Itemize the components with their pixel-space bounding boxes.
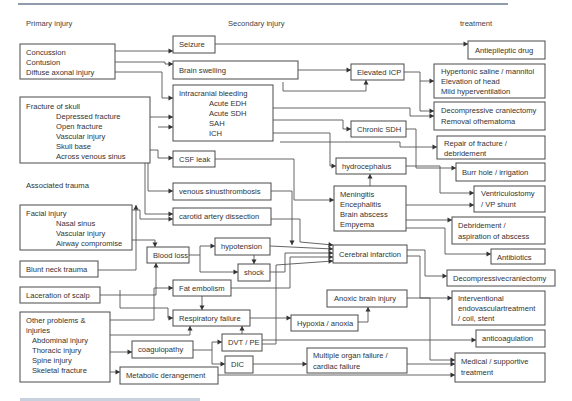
- box-line: Thoracic injury: [32, 346, 82, 355]
- box-label: Brain swelling: [179, 66, 226, 75]
- connector-line: [212, 350, 225, 364]
- arrowhead: [211, 243, 215, 248]
- box-csf-leak: CSF leak: [173, 151, 215, 167]
- box-line: Airway compromise: [56, 239, 122, 248]
- box-repair-fracture: Repair of fracture / debridement: [437, 136, 545, 159]
- box-line: treatment: [461, 368, 494, 377]
- box-venous-sinus-thrombosis: venous sinusthrombosis: [173, 183, 271, 200]
- arrowhead: [330, 197, 334, 202]
- box-line: Open fracture: [56, 122, 102, 131]
- box-label: shock: [244, 268, 264, 277]
- arrowhead: [365, 307, 370, 311]
- box-blood-loss: Blood loss: [147, 247, 189, 263]
- box-line: Depressed fracture: [56, 112, 121, 121]
- arrowhead: [187, 326, 192, 330]
- box-anticoagulation: anticoagulation: [476, 330, 545, 347]
- box-label: Burr hole / irrigation: [462, 168, 528, 177]
- box-line: Vascular injury: [56, 132, 105, 141]
- box-line: Skeletal fracture: [32, 366, 87, 375]
- box-label: Seizure: [179, 40, 205, 49]
- box-label: Blunt neck trauma: [26, 265, 88, 274]
- connector-line: [273, 108, 434, 116]
- arrowhead: [328, 259, 333, 264]
- arrowhead: [221, 361, 225, 366]
- arrowhead: [464, 41, 468, 46]
- box-debridement-abscess: Debridement / aspiration of abscess: [452, 217, 545, 244]
- connector-line: [148, 160, 173, 191]
- connector-line: [407, 256, 452, 298]
- arrowhead: [287, 315, 291, 320]
- connector-line: [110, 326, 190, 335]
- connector-line: [273, 133, 336, 166]
- box-line: Hypertonic saline / mannitol: [441, 67, 535, 76]
- arrowhead: [169, 216, 173, 221]
- arrowhead: [452, 165, 456, 170]
- arrowhead: [303, 361, 307, 366]
- box-line: Debridement /: [458, 221, 507, 230]
- box-cerebral-infarction: Cerebral infarction: [333, 245, 407, 263]
- box-hypotension: hypotension: [215, 238, 270, 255]
- box-line: Elevation of head: [441, 77, 500, 86]
- box-line: Nasal sinus: [56, 219, 95, 228]
- box-line: Empyema: [340, 220, 375, 229]
- box-label: hydrocephalus: [342, 162, 392, 171]
- box-label: carotid artery dissection: [179, 212, 259, 221]
- arrowhead: [218, 339, 222, 344]
- box-dic: DIC: [225, 356, 253, 373]
- arrowhead: [328, 246, 333, 251]
- box-line: Abdominal injury: [32, 336, 88, 345]
- arrowhead: [347, 67, 351, 72]
- box-label: Fat embolism: [179, 284, 225, 293]
- header-primary-injury: Primary injury: [26, 19, 73, 28]
- box-label: anticoagulation: [482, 334, 533, 343]
- box-line: Skull base: [56, 142, 91, 151]
- connector-line: [200, 255, 238, 272]
- arrowhead: [329, 254, 333, 259]
- arrowhead: [128, 349, 132, 354]
- box-title: Intracranial bleeding: [179, 89, 247, 98]
- box-line: Repair of fracture /: [444, 139, 508, 148]
- connector-line: [280, 142, 437, 147]
- arrowhead: [430, 108, 434, 113]
- arrowhead: [470, 202, 474, 207]
- connector-line: [358, 307, 368, 322]
- box-line: aspiration of abscess: [458, 232, 530, 241]
- connector-line: [271, 219, 333, 245]
- connector-line: [273, 120, 351, 129]
- arrowhead: [199, 306, 204, 310]
- box-line: endovasculartreatment: [458, 304, 536, 313]
- box-line: cardiac failure: [313, 362, 360, 371]
- arrowhead: [451, 357, 455, 362]
- arrowhead: [430, 113, 434, 118]
- box-seizure: Seizure: [173, 36, 215, 53]
- box-label: Cerebral infarction: [339, 250, 401, 259]
- box-label: Chronic SDH: [357, 125, 401, 134]
- connector-line: [100, 263, 156, 295]
- arrowhead: [169, 48, 173, 53]
- box-other-problems: Other problems & injuries Abdominal inju…: [20, 312, 110, 382]
- box-dvt-pe: DVT / PE: [222, 334, 262, 351]
- arrowhead: [169, 155, 173, 160]
- box-label: DIC: [231, 360, 245, 369]
- box-coagulopathy: coagulopathy: [132, 341, 193, 358]
- box-elevated-icp: Elevated ICP: [351, 64, 404, 80]
- connector-line: [270, 253, 333, 272]
- arrowhead: [451, 361, 455, 366]
- box-fat-embolism: Fat embolism: [173, 280, 231, 296]
- box-hypoxia-anoxia: Hypoxia / anoxia: [291, 315, 358, 331]
- header-secondary-injury: Secondary injury: [228, 19, 285, 28]
- connector-line: [420, 81, 434, 111]
- arrowhead: [169, 315, 173, 320]
- box-label: Antibiotics: [497, 253, 532, 262]
- box-intracranial-bleeding: Intracranial bleeding Acute EDH Acute SD…: [173, 85, 273, 141]
- box-label: Blood loss: [153, 251, 188, 260]
- arrowhead: [116, 369, 120, 374]
- arrowhead: [443, 273, 447, 278]
- box-label: Hypoxia / anoxia: [297, 319, 354, 328]
- box-fracture-of-skull: Fracture of skull Depressed fracture Ope…: [20, 97, 150, 163]
- box-respiratory-failure: Respiratory failure: [173, 310, 250, 326]
- box-metabolic-derangement: Metabolic derangement: [120, 367, 218, 384]
- box-title: Fracture of skull: [26, 102, 80, 111]
- arrowhead: [430, 78, 434, 83]
- box-label: venous sinusthrombosis: [179, 187, 261, 196]
